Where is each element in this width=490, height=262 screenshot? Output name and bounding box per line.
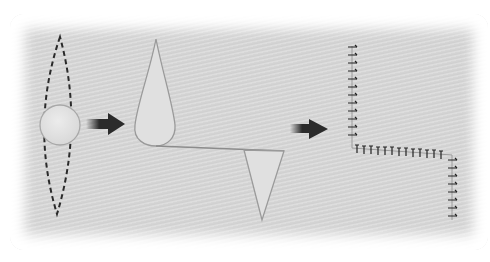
closure-line: [352, 46, 452, 220]
arrow-2-icon: [290, 119, 328, 139]
step-1-excision: [40, 37, 80, 214]
teardrop-flap: [135, 39, 175, 146]
stitches-horizontal: [355, 145, 443, 159]
diagram-illustration: [0, 0, 490, 262]
arrow-1-icon: [86, 113, 125, 135]
diagram-canvas: [0, 0, 490, 262]
lesion-circle: [40, 105, 80, 145]
step-2-wound-edges: [135, 39, 284, 220]
step-3-sutured-closure: [348, 45, 457, 220]
triangle-flap: [244, 150, 284, 220]
